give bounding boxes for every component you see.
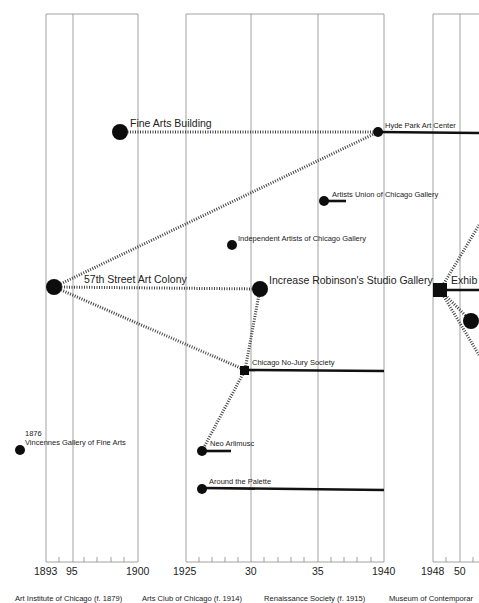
year-1900: 1900 <box>126 565 149 577</box>
label-vincennes-year: 1876 <box>25 430 42 438</box>
label-chicago-no-jury: Chicago No-Jury Society <box>252 359 335 367</box>
year-50: 50 <box>454 565 466 577</box>
label-exhib: Exhib <box>451 275 477 286</box>
node-artists-union <box>319 196 329 206</box>
node-independent-artists <box>227 240 237 250</box>
year-30: 30 <box>245 565 257 577</box>
label-hyde-park-art-center: Hyde Park Art Center <box>385 122 456 130</box>
label-around-the-palette: Around the Palette <box>209 478 271 486</box>
label-increase-robinson: Increase Robinson's Studio Gallery <box>269 275 433 286</box>
caption-art-institute: Art Institute of Chicago (f. 1879) <box>15 594 122 603</box>
caption-renaissance: Renaissance Society (f. 1915) <box>264 594 365 603</box>
label-artists-union: Artists Union of Chicago Gallery <box>332 191 438 199</box>
label-vincennes: Vincennes Gallery of Fine Arts <box>25 439 126 447</box>
node-hyde-park-art-center <box>373 127 383 137</box>
node-neo-arlimusc <box>197 446 207 456</box>
year-35: 35 <box>312 565 324 577</box>
node-around-the-palette <box>197 484 207 494</box>
node-increase-robinson <box>252 281 268 297</box>
label-57th-street: 57th Street Art Colony <box>84 274 187 285</box>
caption-arts-club: Arts Club of Chicago (f. 1914) <box>142 594 242 603</box>
label-fine-arts-building: Fine Arts Building <box>130 118 212 129</box>
node-57th-street <box>46 279 62 295</box>
node-chicago-no-jury <box>240 366 249 375</box>
node-mca-second <box>463 313 479 329</box>
duration-lines <box>202 132 479 490</box>
node-exhib <box>433 283 447 297</box>
label-independent-artists: Independent Artists of Chicago Gallery <box>238 235 366 243</box>
caption-mca: Museum of Contemporar <box>389 594 473 603</box>
node-fine-arts-building <box>112 124 128 140</box>
year-1948: 1948 <box>421 565 444 577</box>
year-1940: 1940 <box>372 565 395 577</box>
node-vincennes <box>15 445 25 455</box>
year-1925: 1925 <box>173 565 196 577</box>
year-1893: 1893 <box>34 565 57 577</box>
timeline-diagram <box>0 0 479 603</box>
label-neo-arlimusc: Neo Arlimusc <box>210 440 254 448</box>
year-95: 95 <box>66 565 78 577</box>
